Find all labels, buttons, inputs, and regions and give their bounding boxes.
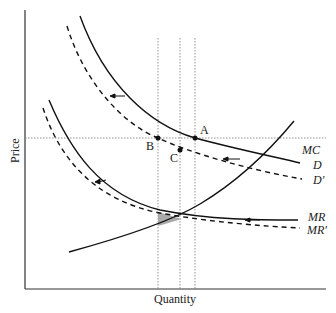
x-axis-label: Quantity <box>154 292 196 306</box>
label-mc: MC <box>301 143 321 157</box>
mc-curve <box>69 121 294 252</box>
label-a: A <box>200 123 209 137</box>
y-axis-label: Price <box>8 138 22 163</box>
label-c: C <box>170 151 178 165</box>
label-mrprime: MR′ <box>306 223 327 237</box>
point-c <box>178 148 183 153</box>
point-a <box>193 136 198 141</box>
label-mr: MR <box>307 210 326 224</box>
label-d: D <box>312 158 322 172</box>
mr-curve-shifted <box>43 108 300 228</box>
economics-diagram: A B C MC D D′ MR MR′ Quantity Price <box>0 0 336 313</box>
point-b <box>156 136 161 141</box>
demand-curve <box>80 16 300 163</box>
label-dprime: D′ <box>312 173 325 187</box>
label-b: B <box>146 139 154 153</box>
